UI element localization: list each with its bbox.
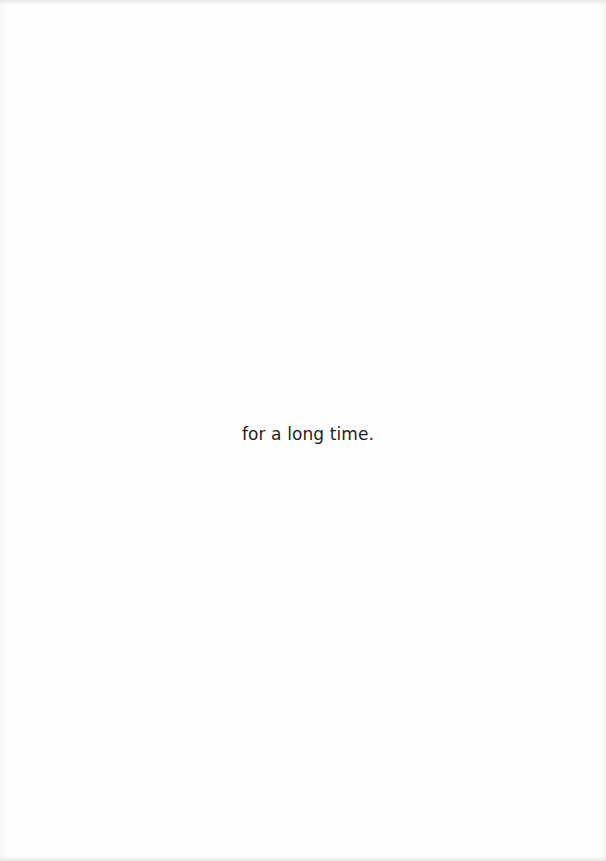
page-edge-bottom: [0, 857, 606, 861]
page-text: for a long time.: [0, 424, 606, 444]
page-edge-top: [0, 0, 606, 4]
book-page: for a long time.: [0, 0, 606, 861]
